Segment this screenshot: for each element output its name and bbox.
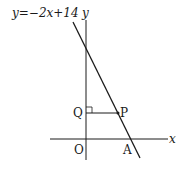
- label-A: A: [122, 143, 132, 157]
- coordinate-diagram: y=−2x+14 y x Q P O A: [0, 0, 188, 176]
- label-Q: Q: [73, 106, 83, 120]
- label-P: P: [120, 106, 128, 120]
- equation-label: y=−2x+14: [11, 6, 79, 20]
- label-O: O: [74, 143, 84, 157]
- right-angle-marker: [86, 107, 92, 113]
- line-y-eq-neg2x-plus-14: [73, 22, 140, 158]
- y-axis-label: y: [81, 6, 89, 20]
- x-axis-label: x: [169, 132, 176, 146]
